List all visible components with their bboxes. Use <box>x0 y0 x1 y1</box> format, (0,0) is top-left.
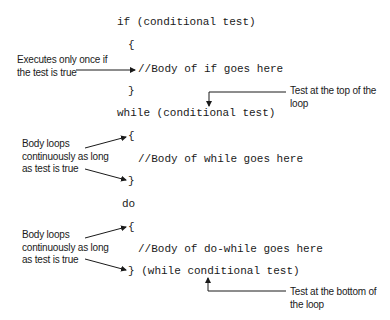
if-close-brace: } <box>128 85 135 97</box>
do-keyword: do <box>122 198 135 210</box>
bottom-test-arrow <box>208 278 286 291</box>
if-header: if (conditional test) <box>117 16 256 28</box>
if-annotation: Executes only once if the test is true <box>17 54 107 79</box>
do-open-brace: { <box>128 221 135 233</box>
do-annotation: Body loops continuously as long as test … <box>22 229 109 267</box>
while-close-brace: } <box>128 175 135 187</box>
bottom-test-annotation: Test at the bottom of the loop <box>290 286 376 311</box>
if-body-comment: //Body of if goes here <box>138 63 283 75</box>
do-close-brace: } (while conditional test) <box>128 265 300 277</box>
while-annotation: Body loops continuously as long as test … <box>22 138 109 176</box>
while-open-brace: { <box>128 130 135 142</box>
do-body-comment: //Body of do-while goes here <box>138 243 323 255</box>
while-body-comment: //Body of while goes here <box>138 153 303 165</box>
while-header: while (conditional test) <box>117 107 275 119</box>
top-test-annotation: Test at the top of the loop <box>290 85 376 110</box>
top-test-arrow <box>209 92 286 106</box>
if-open-brace: { <box>128 39 135 51</box>
